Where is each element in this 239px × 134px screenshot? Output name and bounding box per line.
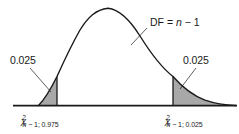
degrees-of-freedom-label: DF = n − 1 [150, 17, 200, 28]
chi-square-distribution-figure: 0.025 0.025 DF = n − 1 χ2n − 1; 0.975 χ2… [0, 0, 239, 134]
chi-subscript-rest-right: − 1; 0.025 [170, 121, 202, 128]
distribution-plot [0, 0, 239, 134]
chi-subscript-rest-left: − 1; 0.975 [26, 121, 58, 128]
chi-superscript-left: 2 [22, 114, 26, 121]
right-critical-value-label: χ2n − 1; 0.025 [165, 116, 210, 126]
right-tail-probability-label: 0.025 [183, 55, 209, 66]
right-probability-leader-line [180, 68, 196, 89]
chi-subscript-right: n − 1; 0.025 [167, 121, 203, 128]
right-tail-shaded-region [173, 77, 236, 106]
chi-subscript-left: n − 1; 0.975 [23, 121, 59, 128]
df-offset: − 1 [182, 16, 200, 28]
left-probability-leader-line [30, 68, 51, 92]
left-critical-value-label: χ2n − 1; 0.975 [21, 116, 66, 126]
left-tail-probability-label: 0.025 [10, 55, 36, 66]
df-text: DF = [150, 16, 176, 28]
chi-superscript-right: 2 [166, 114, 170, 121]
